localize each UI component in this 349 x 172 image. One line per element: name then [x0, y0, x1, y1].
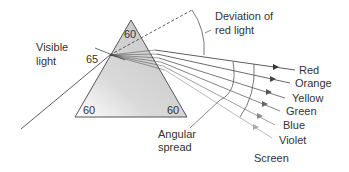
apex-angle-label: 60: [124, 28, 136, 41]
deviation-arc: [192, 10, 204, 55]
deviation-label-1: Deviation of: [215, 10, 273, 23]
color-label-violet: Violet: [279, 134, 306, 147]
base-right-angle-label: 60: [167, 104, 179, 117]
visible-light-label-1: Visible: [36, 41, 68, 54]
deviation-label-2: red light: [215, 24, 254, 37]
color-label-green: Green: [286, 105, 317, 118]
angular-spread-label-2: spread: [158, 141, 192, 154]
screen-arc: [240, 64, 254, 117]
color-label-red: Red: [299, 64, 319, 77]
angular-spread-label-1: Angular: [158, 128, 196, 141]
incidence-angle-label: 65: [86, 53, 98, 66]
color-label-blue: Blue: [283, 119, 305, 132]
visible-light-label-2: light: [36, 55, 56, 68]
screen-label: Screen: [254, 152, 289, 165]
color-label-orange: Orange: [295, 77, 332, 90]
base-left-angle-label: 60: [83, 104, 95, 117]
dispersed-rays: [155, 50, 295, 138]
color-label-yellow: Yellow: [292, 92, 323, 105]
